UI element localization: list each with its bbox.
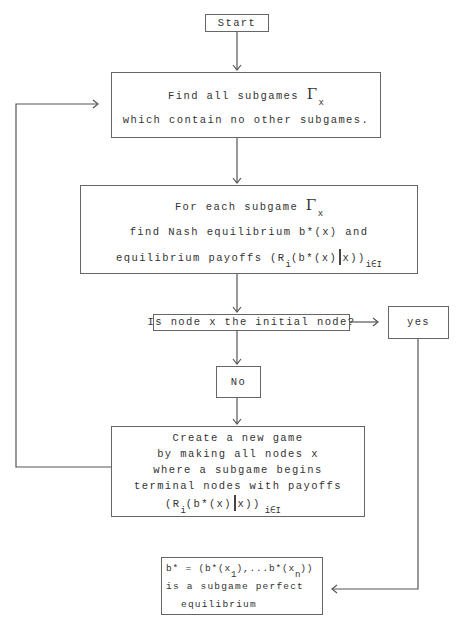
create-new-game-step: Create a new game by making all nodes x … bbox=[111, 426, 365, 517]
result-line1: b* = (b*(x1),...b*(xn)) bbox=[166, 564, 313, 574]
subgame-perfect-result: b* = (b*(x1),...b*(xn)) is a subgame per… bbox=[161, 557, 323, 615]
result-line2: is a subgame perfect bbox=[166, 582, 304, 592]
step3-line1: Create a new game bbox=[112, 433, 364, 444]
step3-line3: where a subgame begins bbox=[112, 465, 364, 476]
step2-line2: find Nash equilibrium b*(x) and bbox=[81, 227, 417, 238]
result-line3: equilibrium bbox=[181, 600, 257, 610]
decision-label: Is node x the initial node? bbox=[148, 317, 356, 328]
step3-line5: (Ri(b*(x)x))i∈I bbox=[165, 495, 281, 511]
no-label: No bbox=[231, 377, 246, 388]
yes-node: yes bbox=[388, 306, 449, 339]
find-subgames-step: Find all subgames Γx which contain no ot… bbox=[111, 72, 381, 138]
initial-node-decision: Is node x the initial node? bbox=[153, 314, 350, 331]
step1-line2: which contain no other subgames. bbox=[112, 115, 380, 126]
step2-line3: equilibrium payoffs (Ri(b*(x)x))i∈I bbox=[81, 249, 417, 265]
step3-line4: terminal nodes with payoffs bbox=[112, 481, 364, 492]
step1-line1: Find all subgames Γx bbox=[112, 87, 380, 102]
step3-line2: by making all nodes x bbox=[112, 449, 364, 460]
start-node: Start bbox=[205, 14, 269, 32]
step2-line1: For each subgame Γx bbox=[81, 198, 417, 213]
yes-label: yes bbox=[407, 317, 430, 328]
nash-equilibrium-step: For each subgame Γx find Nash equilibriu… bbox=[80, 185, 418, 274]
no-node: No bbox=[216, 366, 261, 398]
start-label: Start bbox=[218, 18, 257, 29]
